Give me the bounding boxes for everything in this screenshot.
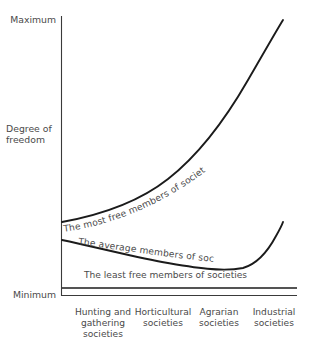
x-tick-hunting-line1: Hunting and	[75, 307, 131, 317]
x-tick-horticultural-line2: societies	[143, 318, 183, 328]
x-tick-agrarian-line2: societies	[199, 318, 239, 328]
x-tick-agrarian-line1: Agrarian	[200, 307, 239, 317]
y-axis-title-line1: Degree of	[6, 123, 52, 134]
y-tick-minimum: Minimum	[13, 289, 56, 300]
x-tick-horticultural-line1: Horticultural	[135, 307, 192, 317]
x-tick-hunting-line2: gathering	[81, 318, 125, 328]
freedom-degree-chart: The most free members of societies The a…	[0, 0, 311, 353]
y-tick-maximum: Maximum	[10, 14, 56, 25]
x-tick-industrial-line1: Industrial	[253, 307, 296, 317]
x-tick-industrial-line2: societies	[254, 318, 294, 328]
curve-label-least-free: The least free members of societies	[83, 270, 247, 280]
curve-label-most-free: The most free members of societies	[0, 0, 207, 234]
chart-canvas: The most free members of societies The a…	[0, 0, 311, 353]
x-tick-hunting-line3: societies	[83, 329, 123, 339]
y-axis-title-line2: freedom	[6, 134, 45, 145]
